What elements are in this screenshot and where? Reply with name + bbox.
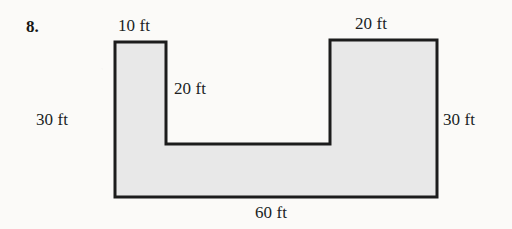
u-shaped-polygon	[115, 40, 437, 197]
worksheet-page: 8. 10 ft 20 ft 20 ft 30 ft 30 ft 60 ft	[0, 0, 512, 229]
dimension-label-right-side: 30 ft	[443, 110, 475, 129]
dimension-label-top-left: 10 ft	[118, 16, 150, 35]
dimension-label-inner-notch: 20 ft	[174, 79, 206, 98]
dimension-label-bottom: 60 ft	[255, 203, 287, 222]
composite-figure-diagram	[0, 0, 512, 229]
dimension-label-top-right: 20 ft	[355, 14, 387, 33]
dimension-label-left-side: 30 ft	[36, 110, 68, 129]
